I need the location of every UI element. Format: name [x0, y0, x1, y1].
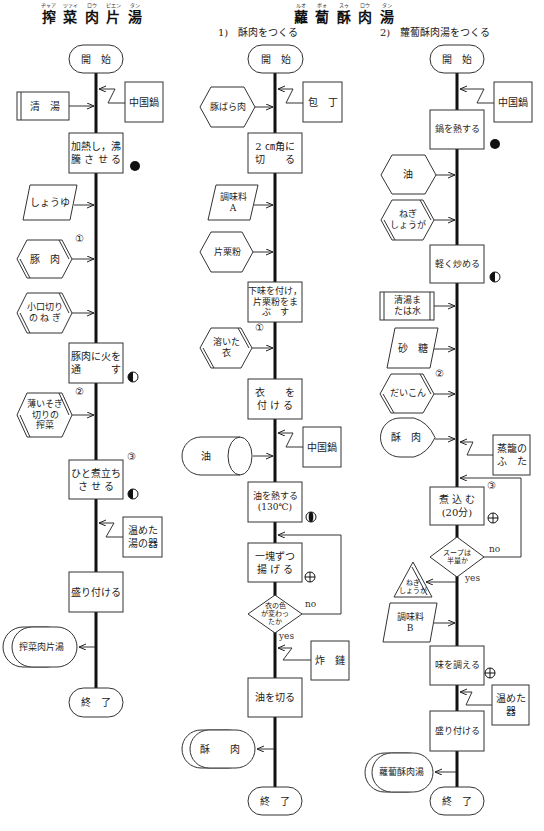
half-circle-icon	[128, 489, 138, 499]
right-input-stock-water-label: 清湯ま たは水	[384, 292, 430, 320]
left-tool-pan-label: 中国鍋	[125, 82, 163, 122]
decision-yes-label: yes	[279, 632, 294, 641]
filled-circle-icon	[130, 161, 140, 171]
order-marker: ③	[127, 452, 136, 462]
cross-circle-icon	[488, 513, 498, 523]
tool-connector	[278, 89, 303, 103]
right-step-simmer-label: 煮 込 む (20分)	[430, 487, 484, 525]
middle-step-drain-label: 油を切る	[248, 678, 302, 717]
order-marker: ①	[75, 234, 84, 244]
half-circle-icon	[490, 272, 500, 282]
order-marker: ②	[75, 387, 84, 397]
middle-input-starch-label: 片栗粉	[203, 232, 251, 272]
right-step-serve-label: 盛り付ける	[430, 711, 484, 751]
tool-connector	[460, 692, 492, 705]
left-tool-bowl-label: 温めた 湯の器	[123, 517, 162, 557]
left-input-stock-label: 清 湯	[21, 92, 69, 120]
right-tool-steamer-lid-label: 蒸籠の ふ た	[493, 435, 530, 475]
middle-end-label: 終 了	[248, 787, 302, 815]
tool-connector	[99, 523, 123, 537]
middle-step-heat-oil-label: 油を熱する (130℃)	[248, 482, 302, 522]
tool-connector	[278, 648, 311, 660]
middle-input-pork-belly-label: 豚ばら肉	[203, 87, 253, 127]
decision-no-label: no	[489, 545, 500, 554]
right-input-negi-ginger-label: ねぎ しょうが	[383, 200, 433, 240]
bar-circle-icon	[306, 512, 316, 522]
order-marker: ③	[487, 481, 496, 491]
middle-step-marinate-label: 下味を付け， 片栗粉をま ぶ す	[248, 282, 302, 322]
right-input-oil-label: 油	[383, 155, 433, 194]
right-input-daikon-label: だいこん	[383, 374, 433, 413]
order-marker: ②	[435, 369, 444, 379]
right-input-suro-label: 酥 肉	[381, 418, 431, 457]
middle-decision-label: 衣の色 が変わっ たか	[250, 599, 300, 629]
cross-circle-icon	[485, 668, 495, 678]
tool-connector	[99, 89, 125, 103]
middle-input-seasoning-a-label: 調味料 A	[210, 185, 256, 220]
middle-step-cut-label: 2 ㎝角に 切 る	[248, 133, 302, 173]
left-step-serve-label: 盛り付ける	[69, 572, 123, 612]
left-input-negi-label: 小口切り の ね ぎ	[20, 293, 70, 333]
decision-yes-label: yes	[465, 574, 480, 583]
right-output-negi-ginger-label: ねぎ しょうが	[396, 577, 430, 597]
right-tool-bowl-label: 温めた 器	[492, 685, 529, 725]
left-input-pork-label: 豚 肉	[20, 240, 70, 278]
left-step-cook-pork-label: 豚肉に火を 通 す	[69, 343, 123, 383]
tool-connector	[278, 433, 303, 447]
tool-connector	[460, 442, 493, 455]
middle-start-label: 開 始	[248, 45, 303, 73]
decision-no-label: no	[305, 600, 316, 609]
right-step-heat-pan-label: 鍋を熱する	[430, 110, 484, 149]
right-step-stir-fry-label: 軽く炒める	[430, 245, 484, 283]
right-end-label: 終 了	[430, 787, 484, 815]
right-input-seasoning-b-label: 調味料 B	[386, 603, 434, 642]
middle-input-oil-label: 油	[184, 437, 228, 475]
left-output-label: 搾菜肉片湯	[12, 627, 70, 667]
right-decision-label: スープは 半量か	[432, 542, 482, 572]
middle-input-batter-label: 溶いた 衣	[203, 328, 249, 368]
middle-output-label: 酥 肉	[192, 730, 248, 768]
left-start-label: 開 始	[69, 45, 123, 73]
left-end-label: 終 了	[69, 688, 123, 717]
filled-circle-icon	[490, 139, 500, 149]
left-step-simmer-label: ひと煮立ち さ せ る	[69, 460, 123, 499]
order-marker: ①	[255, 323, 264, 333]
left-input-zhacai-label: 薄いそぎ 切りの 搾菜	[20, 393, 70, 437]
right-tool-pan-label: 中国鍋	[494, 82, 532, 122]
right-step-season-label: 味を調える	[430, 646, 484, 685]
middle-tool-strainer-label: 炸 鏈	[311, 641, 349, 680]
middle-tool-pan-label: 中国鍋	[303, 427, 341, 467]
right-input-sugar-label: 砂 糖	[389, 328, 436, 368]
left-input-soy-label: しょうゆ	[23, 185, 77, 220]
tool-connector	[460, 89, 494, 103]
middle-step-coat-label: 衣 を 付 け る	[248, 379, 302, 419]
right-output-label: 蘿蔔酥肉湯	[373, 753, 430, 792]
half-circle-icon	[128, 372, 138, 382]
right-start-label: 開 始	[430, 45, 484, 73]
cross-circle-icon	[305, 572, 315, 582]
middle-step-fry-label: 一塊ずつ 揚 げ る	[248, 543, 302, 582]
left-step-heat-boil-label: 加熱し，沸 騰 さ せ る	[69, 133, 123, 173]
middle-tool-knife-label: 包 丁	[303, 82, 342, 122]
